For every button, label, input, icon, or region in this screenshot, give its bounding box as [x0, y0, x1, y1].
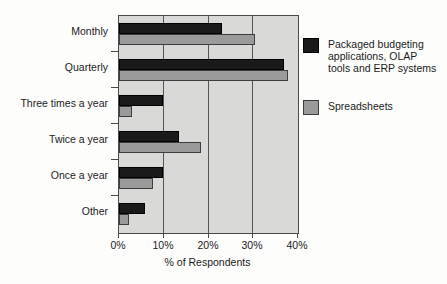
y-axis-label-other: Other: [0, 205, 108, 219]
y-axis-tick: [111, 159, 118, 160]
y-label-text: Quarterly: [0, 61, 108, 73]
y-label-text: Twice a year: [0, 133, 108, 145]
y-label-text: Once a year: [0, 169, 108, 181]
x-axis-tick: [118, 233, 119, 238]
x-axis-tick: [297, 233, 298, 238]
legend-entry-packaged: Packaged budgeting applications, OLAP to…: [303, 38, 436, 74]
bar-spreadsheets-twice-a-year: [119, 142, 201, 153]
gridline-20: [208, 16, 209, 233]
y-axis-tick: [111, 123, 118, 124]
x-axis-tick-label-40: 40%: [277, 239, 317, 251]
gridline-30: [252, 16, 253, 233]
legend-swatch-icon-spreadsheets: [303, 100, 319, 115]
x-axis-tick: [252, 233, 253, 238]
y-axis-tick: [111, 195, 118, 196]
legend-label-line: applications, OLAP: [328, 50, 417, 62]
bar-packaged-once-a-year: [119, 167, 163, 178]
x-axis-tick-label-0: 0%: [98, 239, 138, 251]
bar-spreadsheets-other: [119, 214, 129, 225]
bar-spreadsheets-three-times-a-year: [119, 106, 132, 117]
x-axis-tick-label-20: 20%: [188, 239, 228, 251]
x-axis-tick: [208, 233, 209, 238]
y-axis-label-quarterly: Quarterly: [0, 61, 108, 75]
legend-label-spreadsheets: Spreadsheets: [328, 100, 393, 113]
x-axis-title: % of Respondents: [118, 256, 297, 268]
y-axis-tick: [111, 87, 118, 88]
y-axis-label-twice-a-year: Twice a year: [0, 133, 108, 147]
legend-label-line: tools and ERP systems: [328, 62, 436, 74]
legend-label-packaged: Packaged budgeting applications, OLAP to…: [328, 38, 436, 74]
legend-entry-spreadsheets: Spreadsheets: [303, 100, 393, 115]
bar-spreadsheets-monthly: [119, 34, 255, 45]
bar-packaged-monthly: [119, 23, 222, 34]
y-axis-tick: [111, 51, 118, 52]
y-label-text: Other: [0, 205, 108, 217]
bar-spreadsheets-quarterly: [119, 70, 288, 81]
bar-packaged-quarterly: [119, 59, 284, 70]
chart-figure: Monthly Quarterly Three times a year Twi…: [0, 0, 447, 284]
bar-packaged-twice-a-year: [119, 131, 179, 142]
x-axis-tick-label-30: 30%: [232, 239, 272, 251]
legend-label-line: Packaged budgeting: [328, 38, 424, 50]
bar-packaged-other: [119, 203, 145, 214]
x-axis-tick-label-10: 10%: [143, 239, 183, 251]
y-axis-label-once-a-year: Once a year: [0, 169, 108, 183]
y-axis-label-three-times-a-year: Three times a year: [0, 97, 108, 111]
plot-area: [118, 15, 299, 234]
bar-packaged-three-times-a-year: [119, 95, 163, 106]
legend-swatch-icon-packaged: [303, 38, 319, 53]
gridline-10: [163, 16, 164, 233]
y-axis-label-monthly: Monthly: [0, 25, 108, 39]
y-label-text: Three times a year: [0, 97, 108, 109]
y-label-text: Monthly: [0, 25, 108, 37]
x-axis-tick: [163, 233, 164, 238]
bar-spreadsheets-once-a-year: [119, 178, 153, 189]
